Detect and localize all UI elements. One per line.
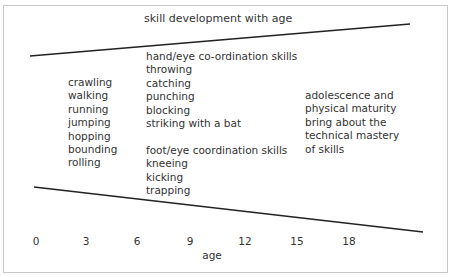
skill-item: striking with a bat xyxy=(146,117,297,130)
skill-item: jumping xyxy=(68,116,117,129)
skill-item: crawling xyxy=(68,76,117,89)
skill-heading-hand-eye: hand/eye co-ordination skills xyxy=(146,50,297,63)
note-line: adolescence and xyxy=(305,89,399,102)
note-line: physical maturity xyxy=(305,102,399,115)
age-tick: 9 xyxy=(187,235,194,247)
skill-item: kicking xyxy=(146,171,297,184)
age-tick: 3 xyxy=(83,235,90,247)
skill-item: running xyxy=(68,103,117,116)
age-tick: 6 xyxy=(134,235,141,247)
age-tick: 12 xyxy=(238,235,251,247)
diagram-title: skill development with age xyxy=(144,12,292,25)
note-line: bring about the xyxy=(305,116,399,129)
age-axis-label: age xyxy=(202,249,222,261)
skill-item: catching xyxy=(146,77,297,90)
note-line: of skills xyxy=(305,143,399,156)
skill-item: punching xyxy=(146,90,297,103)
coordination-skills-list: hand/eye co-ordination skills throwing c… xyxy=(146,50,297,197)
skill-item: blocking xyxy=(146,104,297,117)
skill-item: hopping xyxy=(68,130,117,143)
note-line: technical mastery xyxy=(305,129,399,142)
skill-heading-foot-eye: foot/eye coordination skills xyxy=(146,144,297,157)
age-tick: 18 xyxy=(342,235,355,247)
fundamental-skills-list: crawling walking running jumping hopping… xyxy=(68,76,117,170)
age-tick: 0 xyxy=(33,235,40,247)
spacer xyxy=(146,130,297,143)
skill-item: walking xyxy=(68,89,117,102)
skill-item: kneeing xyxy=(146,157,297,170)
skill-item: throwing xyxy=(146,63,297,76)
age-tick: 15 xyxy=(290,235,303,247)
maturity-note: adolescence and physical maturity bring … xyxy=(305,89,399,156)
skill-item: rolling xyxy=(68,156,117,169)
skill-item: trapping xyxy=(146,184,297,197)
skill-item: bounding xyxy=(68,143,117,156)
